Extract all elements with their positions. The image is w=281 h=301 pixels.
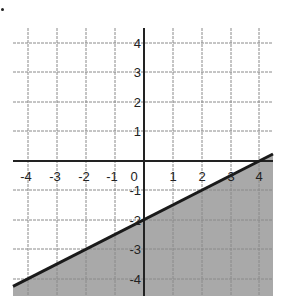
graph: -4 -3 -2 -1 0 1 2 3 4 4 3 2 1 -1 -2 -3 -… bbox=[0, 0, 281, 301]
svg-text:-3: -3 bbox=[49, 169, 61, 184]
svg-text:-3: -3 bbox=[129, 242, 141, 257]
svg-text:3: 3 bbox=[134, 65, 141, 80]
svg-text:-1: -1 bbox=[106, 169, 118, 184]
svg-text:-4: -4 bbox=[20, 169, 32, 184]
svg-text:1: 1 bbox=[134, 124, 141, 139]
svg-text:0: 0 bbox=[130, 169, 137, 184]
svg-text:-4: -4 bbox=[129, 272, 141, 287]
svg-text:4: 4 bbox=[255, 169, 262, 184]
svg-text:1: 1 bbox=[169, 169, 176, 184]
svg-text:4: 4 bbox=[134, 36, 141, 51]
svg-text:-2: -2 bbox=[78, 169, 90, 184]
svg-text:2: 2 bbox=[198, 169, 205, 184]
svg-text:2: 2 bbox=[134, 95, 141, 110]
svg-text:-2: -2 bbox=[129, 213, 141, 228]
svg-text:-1: -1 bbox=[129, 183, 141, 198]
svg-text:3: 3 bbox=[227, 169, 234, 184]
